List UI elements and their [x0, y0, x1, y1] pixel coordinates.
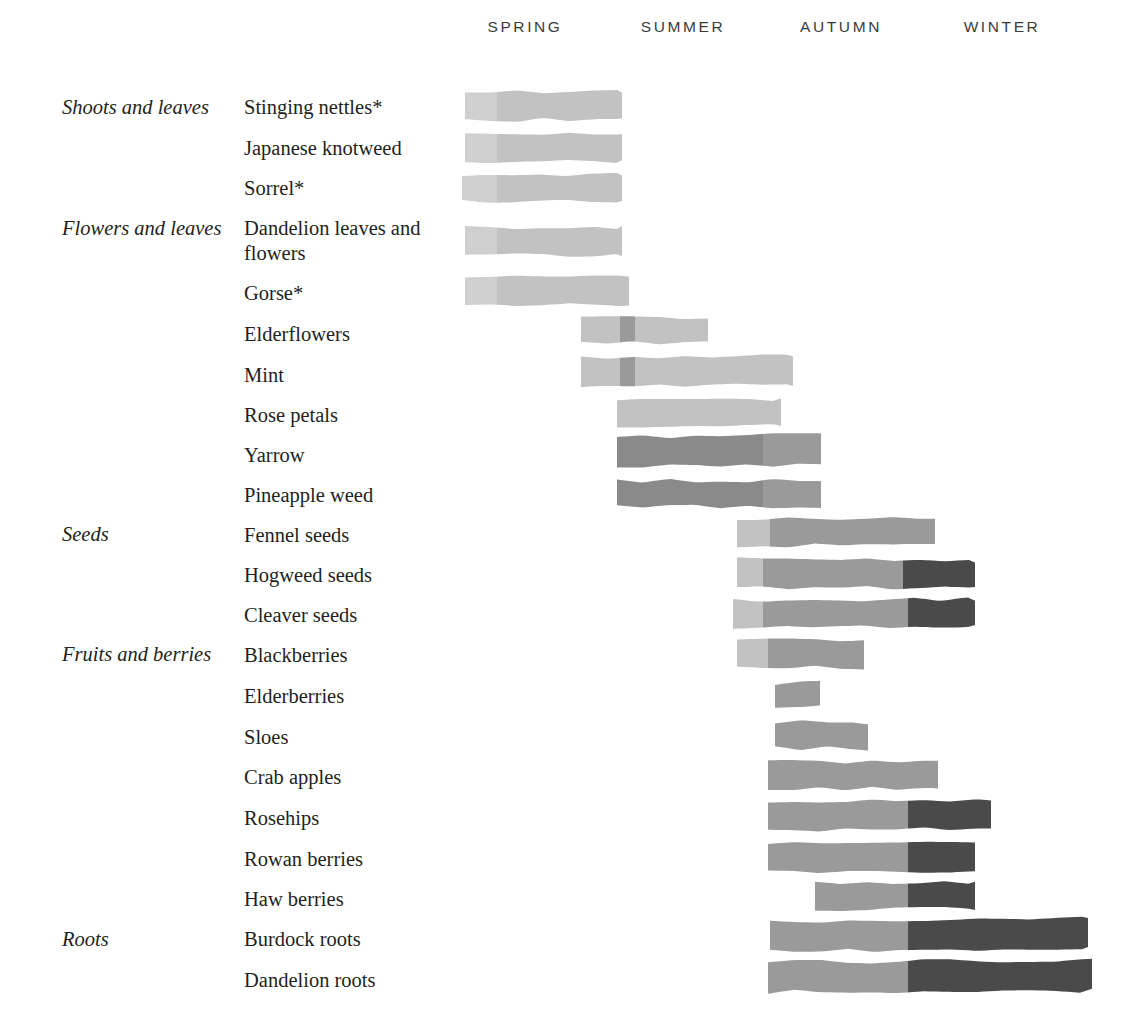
- bar-japanese-knotweed: [465, 133, 622, 163]
- bar-elderberries: [775, 681, 820, 708]
- bars-canvas: [0, 0, 1144, 1025]
- bar-dandelion-leaves-and-flowers: [465, 226, 622, 257]
- bar-mint: [581, 354, 793, 387]
- bar-segment-light2: [497, 90, 622, 122]
- bar-segment-medium: [770, 921, 908, 952]
- bar-segment-medium_dark: [617, 479, 763, 508]
- bar-sorrel: [462, 173, 622, 203]
- bar-hogweed-seeds: [737, 557, 975, 589]
- bar-segment-light2: [737, 557, 763, 587]
- bar-segment-light: [465, 92, 497, 121]
- bar-segment-light: [465, 277, 497, 305]
- bar-segment-light2: [581, 357, 620, 388]
- bar-segment-dark: [908, 598, 975, 628]
- bar-sloes: [775, 721, 868, 751]
- bar-segment-medium: [768, 800, 908, 832]
- bar-segment-medium: [763, 558, 903, 589]
- bar-segment-dark: [908, 959, 1092, 993]
- bar-segment-medium: [763, 598, 908, 628]
- bar-yarrow: [617, 433, 821, 467]
- bar-segment-medium: [768, 760, 938, 790]
- bar-segment-light2: [737, 519, 770, 547]
- bar-burdock-roots: [770, 917, 1088, 952]
- bar-haw-berries: [815, 881, 975, 911]
- bar-segment-dark: [908, 917, 1088, 951]
- bar-segment-light2: [497, 276, 629, 307]
- bar-segment-light2: [737, 639, 768, 669]
- bar-blackberries: [737, 638, 864, 669]
- bar-segment-light: [462, 175, 497, 203]
- bar-segment-light2: [635, 316, 708, 344]
- bar-dandelion-roots: [768, 959, 1092, 994]
- bar-segment-medium: [768, 842, 908, 873]
- bar-segment-medium: [815, 882, 908, 911]
- bar-stinging-nettles: [465, 90, 622, 122]
- bar-rose-petals: [617, 399, 781, 428]
- bar-segment-medium: [620, 357, 635, 386]
- bar-segment-light2: [617, 399, 781, 428]
- bar-rosehips: [768, 800, 991, 832]
- bar-segment-dark: [908, 842, 975, 873]
- bar-segment-medium: [768, 638, 864, 669]
- bar-fennel-seeds: [737, 517, 935, 547]
- bar-segment-medium: [620, 316, 635, 342]
- bar-segment-dark: [903, 560, 975, 589]
- bar-segment-light2: [635, 354, 793, 386]
- bar-segment-medium: [763, 433, 821, 467]
- bar-gorse: [465, 276, 629, 307]
- bar-cleaver-seeds: [733, 598, 975, 629]
- bar-segment-light2: [497, 133, 622, 163]
- bar-pineapple-weed: [617, 479, 821, 508]
- bar-segment-light2: [497, 173, 622, 203]
- bar-segment-dark: [908, 881, 975, 910]
- bar-segment-light2: [581, 316, 620, 343]
- bar-segment-light2: [497, 226, 622, 257]
- bar-segment-medium: [775, 721, 868, 751]
- bar-segment-medium: [763, 479, 821, 508]
- bar-crab-apples: [768, 760, 938, 790]
- bar-segment-medium_dark: [617, 434, 763, 468]
- bar-segment-light: [465, 226, 497, 255]
- foraging-calendar-chart: SPRINGSUMMERAUTUMNWINTER Shoots and leav…: [0, 0, 1144, 1025]
- bar-segment-medium: [775, 681, 820, 708]
- bar-segment-dark: [908, 800, 991, 831]
- bar-segment-light2: [733, 599, 763, 629]
- bar-segment-medium: [768, 960, 908, 994]
- bar-elderflowers: [581, 316, 708, 344]
- bar-rowan-berries: [768, 842, 975, 873]
- bar-segment-medium: [770, 517, 935, 547]
- bar-segment-light: [465, 133, 497, 163]
